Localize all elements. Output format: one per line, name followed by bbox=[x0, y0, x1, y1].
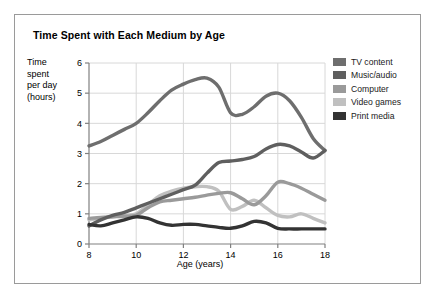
legend-swatch bbox=[333, 71, 346, 79]
legend-label: Music/audio bbox=[351, 70, 397, 80]
legend-swatch bbox=[333, 85, 346, 93]
x-axis-label: Age (years) bbox=[75, 259, 325, 269]
legend-item[interactable]: TV content bbox=[333, 55, 419, 68]
svg-text:1: 1 bbox=[77, 209, 82, 219]
legend-label: Computer bbox=[351, 84, 389, 94]
series-line bbox=[89, 78, 325, 151]
legend-item[interactable]: Print media bbox=[333, 109, 419, 122]
legend-label: Print media bbox=[351, 111, 394, 121]
legend-swatch bbox=[333, 98, 346, 106]
series-line bbox=[89, 217, 325, 229]
legend-swatch bbox=[333, 112, 346, 120]
svg-text:2: 2 bbox=[77, 179, 82, 189]
svg-text:4: 4 bbox=[77, 119, 82, 129]
legend-item[interactable]: Computer bbox=[333, 82, 419, 95]
svg-text:3: 3 bbox=[77, 149, 82, 159]
legend-label: Video games bbox=[351, 97, 401, 107]
legend-label: TV content bbox=[351, 57, 393, 67]
svg-text:5: 5 bbox=[77, 88, 82, 98]
legend-swatch bbox=[333, 58, 346, 66]
legend-item[interactable]: Video games bbox=[333, 96, 419, 109]
svg-text:6: 6 bbox=[77, 58, 82, 68]
chart-figure: Time Spent with Each Medium by Age Time … bbox=[14, 14, 421, 284]
chart-legend: TV contentMusic/audioComputerVideo games… bbox=[333, 55, 419, 123]
legend-item[interactable]: Music/audio bbox=[333, 69, 419, 82]
svg-text:0: 0 bbox=[77, 239, 82, 249]
